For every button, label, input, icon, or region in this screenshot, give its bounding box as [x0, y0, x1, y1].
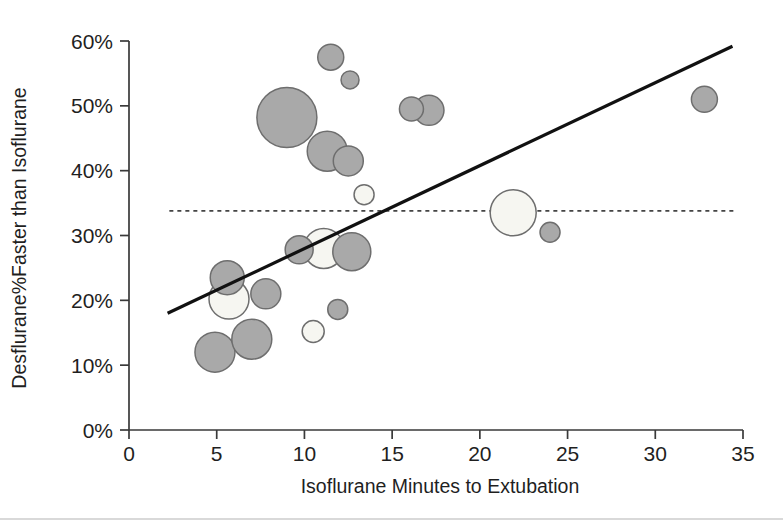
x-tick-label: 25	[556, 442, 579, 465]
y-tick-label: 40%	[71, 159, 113, 182]
x-tick-label: 0	[123, 442, 135, 465]
x-tick-label: 20	[468, 442, 491, 465]
y-tick-label: 20%	[71, 289, 113, 312]
bubble-marker	[333, 233, 371, 271]
trend-line-segment	[168, 46, 733, 313]
bubble-marker	[354, 185, 374, 205]
y-tick-label: 60%	[71, 30, 113, 53]
bubble-marker	[490, 190, 536, 236]
y-tick-label: 0%	[83, 419, 113, 442]
x-tick-label: 10	[293, 442, 316, 465]
y-axis-title: Desflurane%Faster than Isoflurane	[8, 87, 30, 388]
bubble-marker	[195, 332, 235, 372]
bubble-marker	[232, 319, 272, 359]
bubble-series	[195, 44, 717, 372]
x-axis-title: Isoflurane Minutes to Extubation	[301, 475, 580, 497]
x-tick-label: 5	[211, 442, 223, 465]
y-tick-label: 10%	[71, 354, 113, 377]
bubble-marker	[251, 279, 281, 309]
bubble-marker	[328, 299, 348, 319]
bubble-marker	[302, 320, 324, 342]
bubble-marker	[341, 71, 359, 89]
y-axis-tick-labels: 0%10%20%30%40%50%60%	[71, 30, 113, 442]
x-tick-label: 35	[731, 442, 754, 465]
x-tick-label: 15	[380, 442, 403, 465]
x-tick-label: 30	[644, 442, 667, 465]
bubble-marker	[691, 86, 717, 112]
chart-canvas: 05101520253035 0%10%20%30%40%50%60% Isof…	[0, 0, 783, 528]
bubble-marker	[318, 44, 344, 70]
bubble-chart: 05101520253035 0%10%20%30%40%50%60% Isof…	[0, 0, 783, 528]
bubble-marker	[399, 97, 423, 121]
bubble-marker	[257, 88, 317, 148]
regression-trend-line	[168, 46, 733, 313]
y-tick-label: 50%	[71, 94, 113, 117]
y-tick-label: 30%	[71, 224, 113, 247]
bubble-marker	[333, 146, 363, 176]
x-axis-tick-labels: 05101520253035	[123, 442, 755, 465]
bubble-marker	[540, 222, 560, 242]
